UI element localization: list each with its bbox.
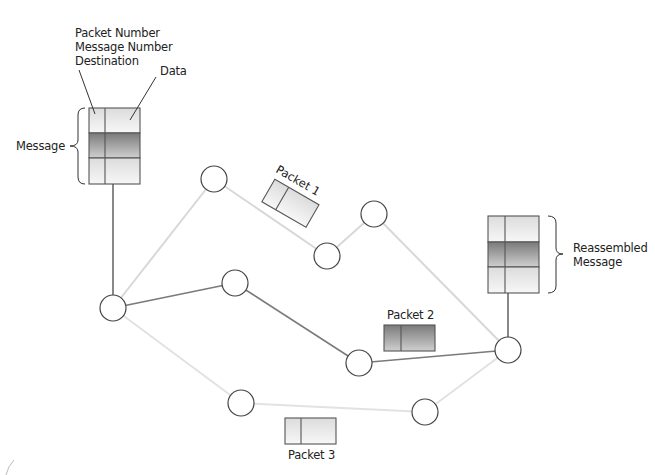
scan-artifact-mark (6, 460, 14, 475)
node (228, 390, 254, 416)
reassembled-message-block (488, 216, 539, 293)
node (314, 243, 340, 269)
destination-label: Destination (75, 54, 139, 68)
packet-switching-diagram: Packet 1 (0, 0, 655, 475)
reassembled-brace (548, 216, 563, 293)
packet-3-block (285, 418, 336, 444)
node (100, 295, 126, 321)
node (361, 201, 387, 227)
route-packet-3 (113, 308, 508, 412)
node (222, 270, 248, 296)
packet-3-label: Packet 3 (288, 448, 335, 462)
node (412, 399, 438, 425)
source-message-block (89, 108, 140, 184)
message-brace (70, 108, 85, 184)
packet-number-label: Packet Number (75, 26, 160, 40)
reassembled-label-line2: Message (573, 255, 622, 269)
data-pointer (130, 77, 156, 120)
node (346, 350, 372, 376)
message-label: Message (16, 139, 65, 153)
packet-2-block (384, 325, 435, 351)
data-label: Data (160, 64, 187, 78)
reassembled-label-line1: Reassembled (573, 241, 648, 255)
header-pointer (79, 70, 95, 114)
message-number-label: Message Number (75, 40, 172, 54)
node (201, 166, 227, 192)
packet-2-label: Packet 2 (387, 308, 434, 322)
node (495, 337, 521, 363)
